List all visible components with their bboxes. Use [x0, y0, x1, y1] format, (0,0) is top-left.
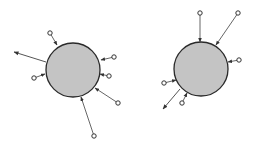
outgoing-arrow-icon [163, 89, 180, 109]
source-node-icon [112, 55, 116, 59]
source-node-icon [198, 11, 202, 15]
particle-diagram-right [162, 11, 241, 109]
diagram-canvas [0, 0, 255, 147]
source-node-icon [162, 81, 166, 85]
source-node-icon [180, 101, 184, 105]
outgoing-arrow-icon [14, 52, 46, 62]
body-circle [174, 42, 228, 96]
source-node-icon [107, 74, 111, 78]
incoming-arrow-icon [81, 97, 94, 136]
source-node-icon [236, 11, 240, 15]
particle-diagram-left [14, 31, 120, 138]
source-node-icon [92, 134, 96, 138]
incoming-arrow-icon [216, 13, 238, 45]
source-node-icon [48, 31, 52, 35]
incoming-arrow-icon [95, 88, 118, 103]
diagram-layer [14, 11, 241, 138]
source-node-icon [32, 76, 36, 80]
source-node-icon [116, 101, 120, 105]
source-node-icon [237, 58, 241, 62]
body-circle [46, 43, 100, 97]
